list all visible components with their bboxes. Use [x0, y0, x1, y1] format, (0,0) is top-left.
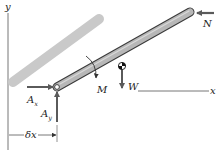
free-body-diagram: y x N W M Ax [0, 0, 219, 155]
force-N-label: N [202, 18, 213, 29]
bar [57, 11, 190, 87]
force-N-arrow: N [197, 13, 214, 29]
force-W-label: W [128, 81, 139, 92]
reaction-Ax-arrow: Ax [26, 87, 53, 108]
dimension-delta-x-label: δx [25, 129, 37, 140]
reaction-Ay-label: Ay [40, 108, 52, 122]
moment-M-label: M [96, 84, 108, 95]
force-W-arrow: W [122, 70, 139, 92]
center-of-gravity-icon [118, 62, 125, 69]
reaction-Ay-arrow: Ay [40, 92, 57, 122]
pin-joint-icon [55, 85, 60, 90]
reaction-Ax-label: Ax [26, 94, 38, 108]
x-axis-label: x [210, 85, 216, 96]
dimension-delta-x: δx [9, 125, 57, 142]
y-axis-label: y [4, 1, 11, 12]
x-axis: x [138, 85, 216, 96]
y-axis: y [4, 1, 11, 150]
